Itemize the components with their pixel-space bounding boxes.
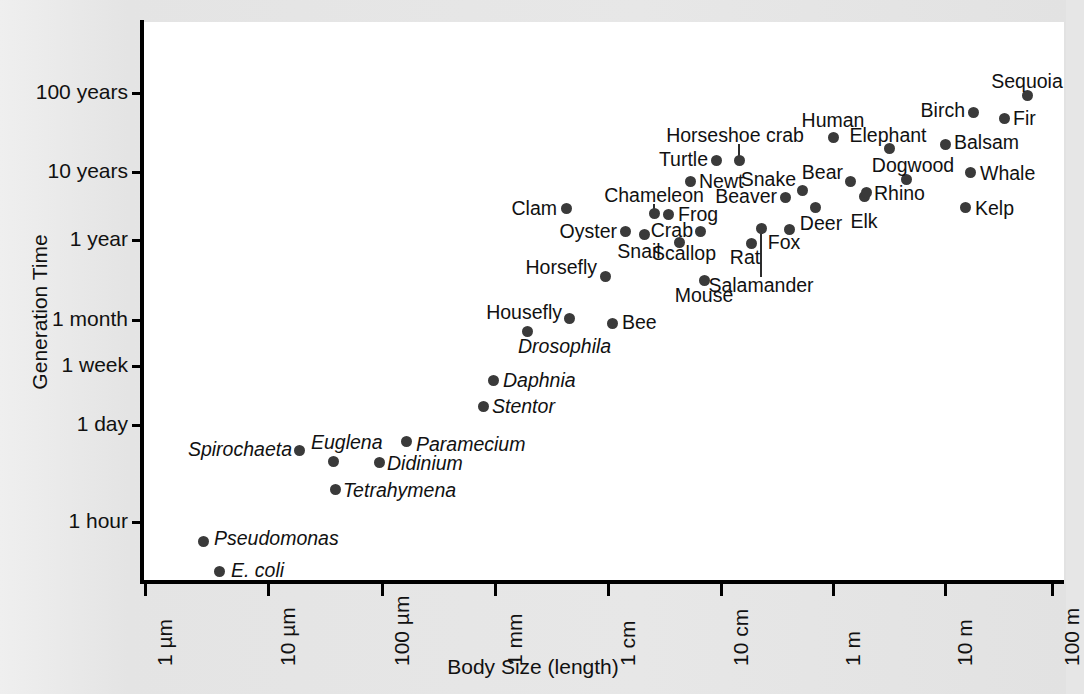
point-label-elephant: Elephant — [850, 126, 927, 146]
data-point-frog[interactable] — [663, 209, 674, 220]
data-point-housefly[interactable] — [564, 313, 575, 324]
point-label-didinium: Didinium — [387, 454, 463, 474]
data-point-birch[interactable] — [968, 107, 979, 118]
y-tick-label: 1 hour — [0, 509, 128, 533]
point-label-whale: Whale — [980, 164, 1035, 184]
point-label-dogwood: Dogwood — [872, 156, 954, 176]
point-label-bee: Bee — [622, 313, 657, 333]
point-label-euglena: Euglena — [311, 433, 383, 453]
data-point-fir[interactable] — [999, 113, 1010, 124]
data-point-didinium[interactable] — [374, 457, 385, 468]
data-point-clam[interactable] — [561, 203, 572, 214]
y-tick-label: 1 day — [0, 412, 128, 436]
x-tick-mark — [144, 584, 147, 596]
data-point-kelp[interactable] — [960, 202, 971, 213]
data-point-paramecium[interactable] — [401, 436, 412, 447]
data-point-tetrahymena[interactable] — [330, 484, 341, 495]
y-tick-mark — [132, 239, 143, 242]
salamander-leader — [760, 228, 762, 277]
point-label-crab: Crab — [651, 221, 693, 241]
point-label-stentor: Stentor — [492, 397, 555, 417]
point-label-deer: Deer — [800, 214, 842, 234]
point-label-tetrahymena: Tetrahymena — [343, 481, 456, 501]
data-point-newt[interactable] — [685, 176, 696, 187]
x-tick-mark — [267, 584, 270, 596]
data-point-horseshoe-crab[interactable] — [734, 155, 745, 166]
point-label-snake: Snake — [741, 170, 796, 190]
data-point-daphnia[interactable] — [488, 375, 499, 386]
data-point-euglena[interactable] — [328, 456, 339, 467]
data-point-balsam[interactable] — [940, 139, 951, 150]
point-label-horseshoe-crab: Horseshoe crab — [666, 126, 804, 146]
y-tick-mark — [132, 171, 143, 174]
y-tick-label: 1 year — [0, 227, 128, 251]
data-point-human[interactable] — [828, 132, 839, 143]
y-tick-label: 1 month — [0, 307, 128, 331]
x-tick-mark — [832, 584, 835, 596]
point-label-clam: Clam — [511, 199, 557, 219]
data-point-beaver[interactable] — [780, 192, 791, 203]
point-label-rhino: Rhino — [874, 184, 925, 204]
y-tick-label: 10 years — [0, 159, 128, 183]
data-point-deer[interactable] — [810, 202, 821, 213]
data-point-snail[interactable] — [639, 229, 650, 240]
point-label-oyster: Oyster — [560, 222, 617, 242]
y-tick-mark — [132, 319, 143, 322]
data-point-snake[interactable] — [797, 185, 808, 196]
point-label-horsefly: Horsefly — [525, 258, 597, 278]
point-label-daphnia: Daphnia — [503, 371, 576, 391]
y-axis-line — [140, 20, 144, 584]
x-tick-mark — [1051, 584, 1054, 596]
data-point-stentor[interactable] — [478, 401, 489, 412]
y-tick-mark — [132, 365, 143, 368]
point-label-drosophila: Drosophila — [518, 337, 611, 357]
point-label-sequoia: Sequoia — [991, 72, 1063, 92]
point-label-elk: Elk — [850, 212, 877, 232]
data-point-e-coli[interactable] — [214, 566, 225, 577]
x-tick-mark — [381, 584, 384, 596]
y-tick-mark — [132, 424, 143, 427]
point-label-pseudomonas: Pseudomonas — [214, 529, 339, 549]
x-tick-mark — [720, 584, 723, 596]
data-point-turtle[interactable] — [711, 155, 722, 166]
point-label-salamander: Salamander — [708, 276, 813, 296]
data-point-pseudomonas[interactable] — [198, 536, 209, 547]
x-tick-mark — [607, 584, 610, 596]
point-label-spirochaeta: Spirochaeta — [188, 440, 292, 460]
point-label-e-coli: E. coli — [231, 561, 284, 581]
point-label-scallop: Scallop — [652, 244, 716, 264]
data-point-bee[interactable] — [607, 318, 618, 329]
point-label-bear: Bear — [802, 163, 843, 183]
point-label-birch: Birch — [921, 101, 965, 121]
point-label-turtle: Turtle — [659, 150, 708, 170]
data-point-chameleon[interactable] — [649, 208, 660, 219]
point-label-rat: Rat — [730, 248, 760, 268]
x-tick-mark — [944, 584, 947, 596]
y-tick-mark — [132, 92, 143, 95]
y-tick-label: 100 years — [0, 80, 128, 104]
point-label-fox: Fox — [768, 233, 801, 253]
data-point-bear[interactable] — [845, 176, 856, 187]
data-point-crab[interactable] — [695, 226, 706, 237]
point-label-kelp: Kelp — [975, 199, 1014, 219]
data-point-whale[interactable] — [965, 167, 976, 178]
data-point-oyster[interactable] — [620, 226, 631, 237]
point-label-paramecium: Paramecium — [416, 435, 525, 455]
x-axis-title: Body Size (length) — [0, 655, 1066, 679]
x-tick-mark — [494, 584, 497, 596]
point-label-balsam: Balsam — [954, 133, 1019, 153]
data-point-spirochaeta[interactable] — [294, 445, 305, 456]
data-point-rhino[interactable] — [861, 187, 872, 198]
y-tick-mark — [132, 521, 143, 524]
data-point-horsefly[interactable] — [600, 271, 611, 282]
y-axis-title: Generation Time — [28, 202, 52, 422]
data-point-salamander[interactable] — [756, 223, 767, 234]
point-label-housefly: Housefly — [486, 303, 562, 323]
point-label-fir: Fir — [1013, 109, 1036, 129]
y-tick-label: 1 week — [0, 353, 128, 377]
